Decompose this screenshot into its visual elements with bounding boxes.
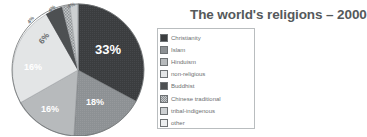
legend-label-islam: Islam [171,46,185,54]
legend-item-hinduism[interactable]: Hinduism [160,56,254,68]
legend-label-other: other [171,119,185,127]
legend-swatch-buddhist [160,82,168,90]
legend-label-tribal-indigenous: tribal-indigenous [171,107,215,115]
legend-label-hinduism: Hinduism [171,58,196,66]
legend-swatch-other [160,119,168,127]
legend-swatch-tribal-indigenous [160,107,168,115]
slice-label-christianity: 33% [95,42,121,57]
legend-swatch-christianity [160,34,168,42]
legend-item-other[interactable]: other [160,117,254,129]
legend-swatch-chinese-traditional [160,95,168,103]
legend-label-christianity: Christianity [171,34,201,42]
legend-label-buddhist: Buddhist [171,82,194,90]
legend-swatch-non-religious [160,70,168,78]
legend-swatch-islam [160,46,168,54]
slice-label-hinduism: 16% [41,104,59,114]
slice-label-islam: 18% [86,97,104,107]
slice-label-non-religious: 16% [24,62,42,72]
legend-label-non-religious: non-religious [171,70,205,78]
legend-item-chinese-traditional[interactable]: Chinese traditional [160,92,254,104]
chart-info-panel: The world's religions – 2000 Christianit… [156,0,324,137]
legend-swatch-hinduism [160,58,168,66]
chart-legend: Christianity Islam Hinduism non-religiou… [157,28,255,129]
legend-label-chinese-traditional: Chinese traditional [171,95,221,103]
legend-item-non-religious[interactable]: non-religious [160,68,254,80]
pie-chart-panel: 33% 18% 16% 16% 6% 4% 4% 4% [0,0,156,137]
pie-chart-graphic: 33% 18% 16% 16% 6% 4% 4% 4% [2,2,154,136]
legend-item-tribal-indigenous[interactable]: tribal-indigenous [160,105,254,117]
page-title: The world's religions – 2000 [190,7,367,22]
legend-item-buddhist[interactable]: Buddhist [160,80,254,92]
legend-item-christianity[interactable]: Christianity [160,32,254,44]
legend-item-islam[interactable]: Islam [160,44,254,56]
